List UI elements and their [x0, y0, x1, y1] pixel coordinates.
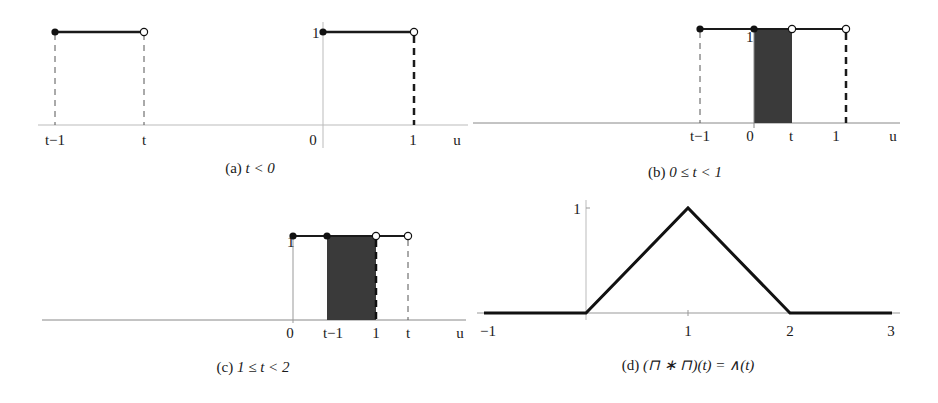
panel-c: 1 0 t−1 1 t u (c) 1 ≤ t < 2 [42, 232, 466, 376]
tick-label: t [142, 132, 147, 148]
tick-label: 0 [286, 325, 294, 341]
filled-dot-icon [51, 28, 58, 35]
x-tick-label: 3 [887, 323, 895, 339]
panel-d: 1 −1 1 2 3 (d) (⊓ ∗ ⊓)(t) = ∧(t) [477, 200, 900, 374]
tick-label: 1 [372, 325, 380, 341]
panel-a: 1 t−1 t 0 1 u (a) t < 0 [38, 22, 468, 177]
axis-label: u [889, 128, 897, 144]
open-dot-icon [842, 25, 849, 32]
x-tick-label: −1 [480, 323, 496, 339]
tick-label: t [406, 325, 411, 341]
x-tick-label: 2 [786, 323, 794, 339]
caption: (b) 0 ≤ t < 1 [648, 164, 722, 181]
axis-label: u [456, 325, 464, 341]
height-label: 1 [746, 29, 754, 45]
caption: (d) (⊓ ∗ ⊓)(t) = ∧(t) [622, 357, 755, 374]
height-label: 1 [287, 234, 295, 250]
overlap-region [754, 29, 792, 123]
triangle-function-line [484, 208, 892, 313]
caption: (a) t < 0 [225, 160, 275, 177]
tick-label: t−1 [323, 325, 343, 341]
tick-label: t−1 [690, 128, 710, 144]
panel-b: 1 t−1 0 t 1 u (b) 0 ≤ t < 1 [473, 25, 900, 181]
x-tick-label: 1 [684, 323, 692, 339]
tick-label: t [789, 128, 794, 144]
overlap-region [327, 236, 376, 320]
y-tick-label: 1 [573, 201, 581, 217]
filled-dot-icon [696, 25, 703, 32]
open-dot-icon [788, 25, 795, 32]
convolution-figure: 1 t−1 t 0 1 u (a) t < 0 1 t−1 0 t 1 u (b… [0, 0, 938, 403]
filled-dot-icon [323, 232, 330, 239]
open-dot-icon [410, 28, 417, 35]
tick-label: t−1 [45, 132, 65, 148]
tick-label: 1 [409, 132, 417, 148]
axis-label: u [453, 132, 461, 148]
tick-label: 1 [832, 128, 840, 144]
filled-dot-icon [319, 28, 326, 35]
caption: (c) 1 ≤ t < 2 [217, 359, 290, 376]
open-dot-icon [140, 28, 147, 35]
height-label: 1 [312, 25, 320, 41]
open-dot-icon [372, 232, 379, 239]
open-dot-icon [404, 232, 411, 239]
tick-label: 0 [309, 132, 317, 148]
tick-label: 0 [746, 128, 754, 144]
